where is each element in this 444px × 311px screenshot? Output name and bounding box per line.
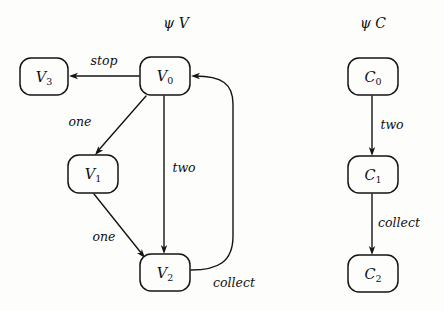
state-node-v0[interactable]: V0 — [140, 57, 190, 95]
diagram-canvas: ψ VstoponetwoonecollectV3V0V1V2ψ Ctwocol… — [0, 0, 444, 311]
edge-c0-c1: two — [369, 96, 404, 156]
edge-v0-v2: two — [161, 96, 196, 254]
edge-v0-v3: stop — [69, 53, 139, 80]
edge-label: one — [93, 229, 116, 244]
edge-label: one — [69, 114, 92, 129]
panel-psi-c: ψ CtwocollectC0C1C2 — [348, 15, 421, 292]
panel-psi-v: ψ VstoponetwoonecollectV3V0V1V2 — [20, 15, 256, 291]
edge-v1-v2: one — [93, 194, 148, 260]
state-node-v1[interactable]: V1 — [68, 155, 118, 193]
edge-label: two — [380, 117, 403, 132]
edge-c1-c2: collect — [369, 194, 421, 255]
panel-title: ψ C — [360, 15, 386, 31]
state-node-c0[interactable]: C0 — [348, 58, 398, 95]
edge-path — [94, 194, 142, 254]
edge-label: stop — [91, 53, 118, 68]
state-node-c1[interactable]: C1 — [348, 156, 398, 193]
edge-label: collect — [213, 275, 256, 290]
edge-v0-v1: one — [69, 96, 146, 157]
edge-label: two — [172, 160, 195, 175]
edge-v2-v0: collect — [191, 73, 256, 290]
state-node-v2[interactable]: V2 — [140, 254, 190, 291]
state-node-c2[interactable]: C2 — [348, 255, 398, 292]
state-machine-diagram: ψ VstoponetwoonecollectV3V0V1V2ψ Ctwocol… — [0, 0, 444, 311]
panel-title: ψ V — [163, 15, 190, 31]
state-node-v3[interactable]: V3 — [20, 58, 68, 95]
edge-label: collect — [378, 215, 421, 230]
edge-path — [191, 76, 233, 270]
edge-path — [97, 96, 146, 152]
